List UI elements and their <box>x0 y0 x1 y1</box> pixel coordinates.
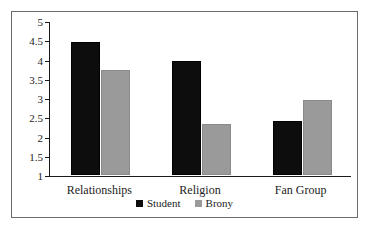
y-axis-line <box>49 22 50 177</box>
legend-label: Brony <box>206 198 234 209</box>
bar-brony-relationships <box>101 70 130 175</box>
bar-group <box>172 21 232 175</box>
y-tick-label: 3.5 <box>29 74 43 85</box>
bar-student-fan-group <box>273 121 302 175</box>
legend-item-brony[interactable]: Brony <box>195 198 234 209</box>
bar-group <box>71 21 131 175</box>
plot-area: 11.522.533.544.55 RelationshipsReligionF… <box>49 22 351 176</box>
y-tick-mark <box>45 22 49 23</box>
bar-student-religion <box>172 61 201 175</box>
y-tick-label: 4.5 <box>29 36 43 47</box>
y-tick-label: 5 <box>38 17 44 28</box>
y-tick-mark <box>45 99 49 100</box>
x-axis-line <box>49 176 351 177</box>
y-tick-label: 1.5 <box>29 151 43 162</box>
y-tick-mark <box>45 157 49 158</box>
bar-brony-religion <box>202 124 231 175</box>
y-tick-mark <box>45 176 49 177</box>
legend-item-student[interactable]: Student <box>136 198 181 209</box>
y-tick-label: 4 <box>38 55 44 66</box>
bar-group <box>273 21 333 175</box>
bar-student-relationships <box>71 42 100 175</box>
legend-label: Student <box>147 198 181 209</box>
legend-swatch-icon <box>195 200 202 207</box>
legend-swatch-icon <box>136 200 143 207</box>
y-tick-mark <box>45 41 49 42</box>
y-tick-label: 2.5 <box>29 113 43 124</box>
category-label: Fan Group <box>250 184 351 196</box>
bar-brony-fan-group <box>303 100 332 175</box>
category-label: Religion <box>150 184 251 196</box>
y-tick-mark <box>45 138 49 139</box>
category-label: Relationships <box>49 184 150 196</box>
y-tick-mark <box>45 118 49 119</box>
y-tick-label: 3 <box>38 94 44 105</box>
chart-legend: StudentBrony <box>12 198 357 209</box>
chart-frame: 11.522.533.544.55 RelationshipsReligionF… <box>11 11 358 218</box>
y-tick-label: 2 <box>38 132 44 143</box>
y-tick-mark <box>45 80 49 81</box>
y-tick-mark <box>45 61 49 62</box>
y-tick-label: 1 <box>38 171 44 182</box>
